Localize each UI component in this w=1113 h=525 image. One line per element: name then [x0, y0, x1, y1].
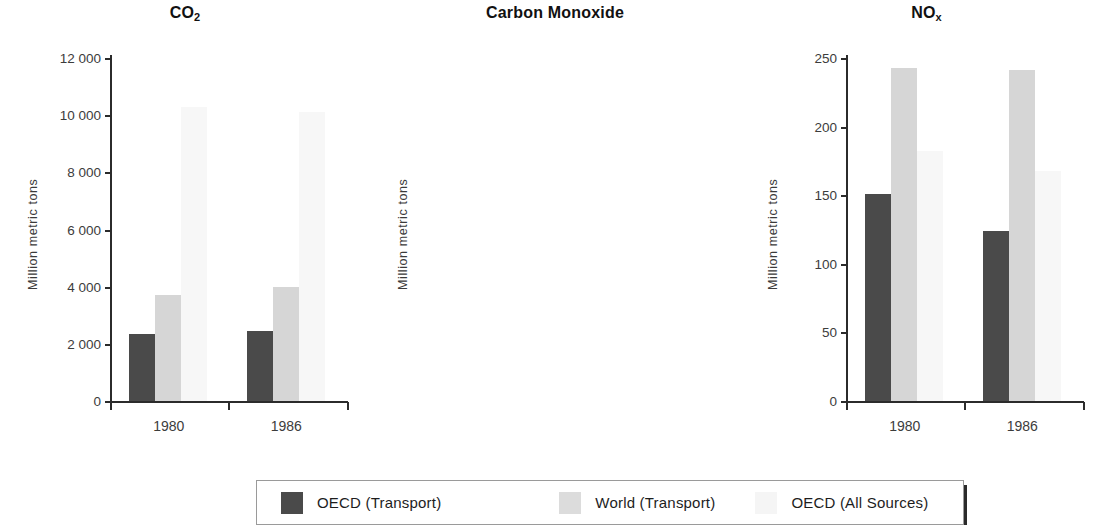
- legend-item-world-transport: World (Transport): [559, 492, 715, 514]
- chart-title-carbon-monoxide: Carbon Monoxide: [370, 4, 740, 22]
- chart-title-nox: NOx: [740, 4, 1113, 22]
- x-tick-mark-icon-co2-end: [347, 402, 349, 410]
- y-axis-line-co2: [110, 55, 112, 401]
- chart-legend: OECD (Transport) World (Transport) OECD …: [256, 480, 964, 525]
- chart-title-nox-base: NO: [911, 4, 935, 21]
- chart-title-co2-subscript: 2: [194, 11, 200, 23]
- chart-panel-co2: CO2 Million metric tons 02 0004 0006 000…: [0, 0, 370, 440]
- y-tick-mark-icon: [105, 230, 111, 232]
- y-tick-label: 0: [93, 394, 101, 409]
- y-tick-label: 10 000: [60, 108, 101, 123]
- chart-panel-carbon-monoxide: Carbon Monoxide Million metric tons 0501…: [370, 0, 740, 440]
- legend-row: OECD (Transport) World (Transport) OECD …: [257, 481, 963, 524]
- y-axis-title-nox: Million metric tons: [766, 179, 780, 290]
- y-tick-mark-icon: [105, 115, 111, 117]
- chart-title-co-base: Carbon Monoxide: [486, 4, 624, 21]
- bar-co2-1980-series2: [181, 107, 207, 401]
- bar-co2-1986-series0: [247, 331, 273, 401]
- x-axis-label-co2-1986: 1986: [271, 418, 302, 434]
- x-tick-mark-icon-co2-0: [110, 402, 112, 410]
- chart-title-co2-base: CO: [170, 4, 194, 21]
- legend-item-oecd-transport: OECD (Transport): [281, 492, 441, 514]
- legend-swatch-icon-oecd-transport: [281, 492, 303, 514]
- y-tick-label: 6 000: [67, 222, 101, 237]
- bar-co2-1980-series0: [129, 334, 155, 401]
- y-tick-mark-icon: [105, 344, 111, 346]
- chart-title-co2: CO2: [0, 4, 370, 22]
- y-axis-title-co2: Million metric tons: [26, 179, 40, 290]
- bar-co2-1980-series1: [155, 295, 181, 401]
- legend-label-world-transport: World (Transport): [595, 494, 715, 511]
- legend-swatch-icon-world-transport: [559, 492, 581, 514]
- plot-area-co2: 02 0004 0006 0008 00010 00012 0001980198…: [110, 58, 345, 401]
- x-tick-mark-icon-co2-1: [228, 402, 230, 410]
- y-tick-label: 12 000: [60, 51, 101, 66]
- chart-title-nox-subscript: x: [936, 11, 942, 23]
- y-tick-label: 8 000: [67, 165, 101, 180]
- y-tick-mark-icon: [105, 172, 111, 174]
- x-axis-label-co2-1980: 1980: [153, 418, 184, 434]
- legend-label-oecd-transport: OECD (Transport): [317, 494, 441, 511]
- legend-label-oecd-all-sources: OECD (All Sources): [791, 494, 928, 511]
- bar-co2-1986-series2: [299, 112, 325, 401]
- legend-swatch-icon-oecd-all-sources: [755, 492, 777, 514]
- bar-co2-1986-series1: [273, 287, 299, 401]
- y-tick-label: 2 000: [67, 336, 101, 351]
- chart-panel-nox: NOx Million metric tons 0102030405060198…: [740, 0, 1113, 440]
- y-tick-mark-icon: [105, 287, 111, 289]
- y-tick-label: 4 000: [67, 279, 101, 294]
- y-axis-title-carbon-monoxide: Million metric tons: [396, 179, 410, 290]
- legend-item-oecd-all-sources: OECD (All Sources): [755, 492, 928, 514]
- y-tick-mark-icon: [105, 58, 111, 60]
